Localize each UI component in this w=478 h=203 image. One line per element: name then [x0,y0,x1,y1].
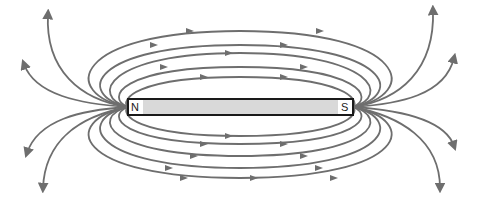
bar-magnet: N S [128,99,353,115]
field-lines-below [89,107,392,178]
north-pole-label: N [131,101,139,113]
south-pole-label: S [341,101,348,113]
bar-magnet-field-diagram: N S [0,0,478,203]
field-lines-above [89,31,392,107]
magnet-body [128,99,353,115]
